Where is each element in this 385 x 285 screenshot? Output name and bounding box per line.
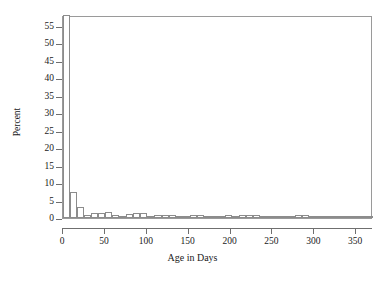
- y-tick-label: 10: [45, 179, 55, 189]
- histogram-bar: [253, 215, 260, 218]
- histogram-bar: [366, 216, 373, 218]
- histogram-bar: [225, 215, 232, 218]
- histogram-bar: [281, 216, 288, 218]
- histogram-bar: [147, 216, 154, 218]
- histogram-bar: [232, 216, 239, 218]
- histogram-figure: Percent 0510152025303540455055 050100150…: [0, 0, 385, 285]
- histogram-bar: [218, 216, 225, 218]
- x-tick: [62, 228, 63, 234]
- histogram-bar: [126, 214, 133, 218]
- histogram-bar: [295, 215, 302, 219]
- y-tick-label: 20: [45, 144, 55, 154]
- x-tick-label: 350: [348, 236, 362, 246]
- histogram-bar: [345, 216, 352, 218]
- x-axis-line: [62, 228, 372, 229]
- histogram-bar: [309, 216, 316, 218]
- histogram-bar: [162, 215, 169, 218]
- x-tick: [230, 228, 231, 234]
- histogram-bar: [239, 215, 246, 218]
- y-tick-label: 25: [45, 127, 55, 137]
- histogram-bar: [274, 216, 281, 218]
- histogram-bar: [84, 215, 91, 219]
- y-tick-label: 35: [45, 92, 55, 102]
- y-axis-title: Percent: [12, 92, 22, 152]
- histogram-bar: [91, 213, 98, 218]
- histogram-bar: [267, 216, 274, 218]
- x-tick-label: 200: [222, 236, 236, 246]
- histogram-bar: [63, 15, 70, 218]
- histogram-bar: [197, 215, 204, 219]
- histogram-bar: [98, 213, 105, 218]
- histogram-bar: [133, 213, 140, 218]
- x-tick-label: 100: [139, 236, 153, 246]
- y-tick-label: 5: [49, 197, 54, 207]
- histogram-bar: [77, 207, 84, 218]
- x-tick: [355, 228, 356, 234]
- histogram-bar: [154, 215, 161, 218]
- x-tick: [271, 228, 272, 234]
- histogram-bar: [204, 216, 211, 218]
- histogram-bar: [169, 215, 176, 218]
- y-tick-label: 15: [45, 162, 55, 172]
- x-tick: [188, 228, 189, 234]
- x-tick-label: 300: [306, 236, 320, 246]
- x-tick: [313, 228, 314, 234]
- y-tick-label: 40: [45, 74, 55, 84]
- x-axis: 050100150200250300350 Age in Days: [0, 219, 385, 285]
- histogram-bar: [260, 216, 267, 218]
- histogram-bar: [112, 215, 119, 218]
- x-tick-label: 0: [60, 236, 65, 246]
- histogram-bar: [176, 216, 183, 218]
- x-tick-label: 150: [181, 236, 195, 246]
- bar-group: [63, 17, 371, 218]
- x-tick-label: 50: [99, 236, 109, 246]
- histogram-bar: [246, 215, 253, 218]
- histogram-bar: [302, 215, 309, 218]
- histogram-bar: [183, 216, 190, 218]
- y-tick-label: 45: [45, 57, 55, 67]
- histogram-bar: [352, 216, 359, 218]
- y-tick-label: 55: [45, 22, 55, 32]
- histogram-bar: [337, 216, 344, 218]
- histogram-bar: [211, 216, 218, 218]
- histogram-bar: [330, 216, 337, 218]
- histogram-bar: [105, 212, 112, 218]
- x-tick-label: 250: [264, 236, 278, 246]
- histogram-bar: [323, 216, 330, 218]
- histogram-bar: [119, 216, 126, 218]
- y-tick-label: 30: [45, 109, 55, 119]
- histogram-bar: [359, 216, 366, 218]
- x-tick: [146, 228, 147, 234]
- histogram-bar: [316, 216, 323, 218]
- histogram-bar: [190, 215, 197, 219]
- x-axis-title: Age in Days: [0, 252, 385, 263]
- histogram-bar: [140, 213, 147, 218]
- histogram-bar: [288, 216, 295, 218]
- plot-area: [62, 16, 372, 219]
- y-tick-label: 50: [45, 39, 55, 49]
- histogram-bar: [70, 192, 77, 218]
- x-tick: [104, 228, 105, 234]
